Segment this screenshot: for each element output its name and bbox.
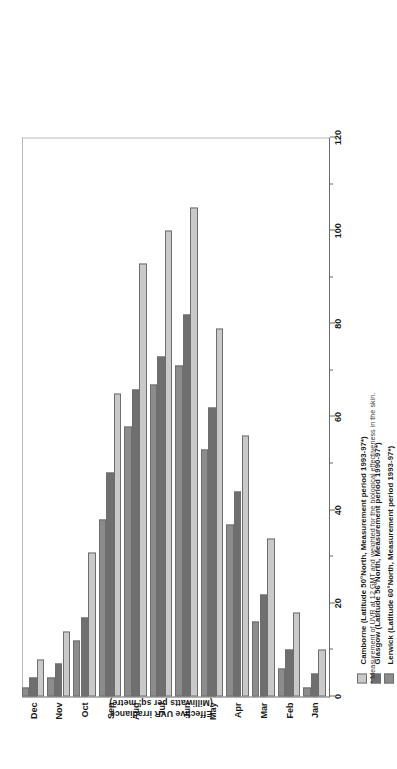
- y-axis-tick-label: 100: [333, 215, 343, 245]
- x-axis-category-label: Aug: [131, 702, 141, 732]
- bar[interactable]: [124, 426, 131, 696]
- bar[interactable]: [99, 519, 106, 696]
- bar[interactable]: [242, 435, 249, 696]
- y-axis-tick-label: 20: [333, 588, 343, 618]
- bar[interactable]: [150, 384, 157, 696]
- bar-series-container: JanFebMarAprMayJunJulAugSepOctNovDec: [22, 137, 329, 696]
- x-axis-category-label: Feb: [285, 702, 295, 732]
- bar[interactable]: [175, 365, 182, 696]
- legend-swatch: [384, 673, 394, 683]
- bar[interactable]: [37, 659, 44, 696]
- y-axis-tick-label: 120: [333, 122, 343, 152]
- x-axis-category-label: Nov: [54, 702, 64, 732]
- bar[interactable]: [47, 677, 54, 696]
- bar[interactable]: [303, 687, 310, 696]
- bar[interactable]: [201, 449, 208, 696]
- x-axis-category-label: Sep: [106, 702, 116, 732]
- bar[interactable]: [114, 393, 121, 696]
- bar[interactable]: [165, 230, 172, 696]
- y-axis-tick-label: 0: [333, 681, 343, 711]
- bar[interactable]: [106, 472, 113, 696]
- bar-group: Apr: [227, 137, 253, 696]
- y-axis-minor-tick: [330, 369, 333, 370]
- bar-group: Jan: [303, 137, 329, 696]
- bar[interactable]: [260, 594, 267, 696]
- bar[interactable]: [293, 612, 300, 696]
- bar[interactable]: [81, 617, 88, 696]
- bar[interactable]: [278, 668, 285, 696]
- x-axis-category-label: Jun: [182, 702, 192, 732]
- bar[interactable]: [267, 538, 274, 696]
- bar[interactable]: [216, 328, 223, 696]
- bar[interactable]: [55, 663, 62, 696]
- bar[interactable]: [285, 649, 292, 696]
- bar[interactable]: [29, 677, 36, 696]
- bar[interactable]: [157, 356, 164, 696]
- bar[interactable]: [318, 649, 325, 696]
- x-axis-category-label: Jan: [310, 702, 320, 732]
- bar-group: Oct: [73, 137, 99, 696]
- x-axis-category-label: May: [208, 702, 218, 732]
- bar-group: Feb: [278, 137, 304, 696]
- bar-group: May: [201, 137, 227, 696]
- y-axis-tick-label: 60: [333, 402, 343, 432]
- bar-group: Sep: [99, 137, 125, 696]
- bar[interactable]: [63, 631, 70, 696]
- y-axis-minor-tick: [330, 648, 333, 649]
- bar[interactable]: [139, 263, 146, 696]
- bar-group: Jul: [150, 137, 176, 696]
- legend-label: Lerwick (Latitude 60°North, Measurement …: [386, 445, 395, 664]
- x-axis-baseline: [329, 137, 330, 697]
- bar[interactable]: [311, 673, 318, 696]
- bar[interactable]: [183, 314, 190, 696]
- y-axis-minor-tick: [330, 183, 333, 184]
- x-axis-category-label: Oct: [80, 702, 90, 732]
- bar[interactable]: [208, 407, 215, 696]
- y-axis-minor-tick: [330, 555, 333, 556]
- bar-group: Dec: [22, 137, 48, 696]
- x-axis-category-label: Apr: [233, 702, 243, 732]
- bar[interactable]: [252, 621, 259, 696]
- x-axis-category-label: Jul: [157, 702, 167, 732]
- bar[interactable]: [132, 389, 139, 696]
- bar[interactable]: [190, 207, 197, 696]
- bar[interactable]: [73, 640, 80, 696]
- x-axis-category-label: Mar: [259, 702, 269, 732]
- bar-group: Jun: [176, 137, 202, 696]
- bar[interactable]: [22, 687, 29, 696]
- bar[interactable]: [234, 491, 241, 696]
- bar-group: Aug: [124, 137, 150, 696]
- x-axis-category-label: Dec: [29, 702, 39, 732]
- y-axis-minor-tick: [330, 462, 333, 463]
- chart-footnote: * Measurement of UVR at 12 GMT and weigh…: [368, 392, 377, 683]
- bar-group: Mar: [252, 137, 278, 696]
- y-axis-minor-tick: [330, 276, 333, 277]
- bar[interactable]: [226, 524, 233, 696]
- legend-item[interactable]: Lerwick (Latitude 60°North, Measurement …: [379, 445, 397, 683]
- y-axis-tick-label: 80: [333, 308, 343, 338]
- y-axis-tick-label: 40: [333, 495, 343, 525]
- bar-group: Nov: [48, 137, 74, 696]
- bar[interactable]: [88, 552, 95, 696]
